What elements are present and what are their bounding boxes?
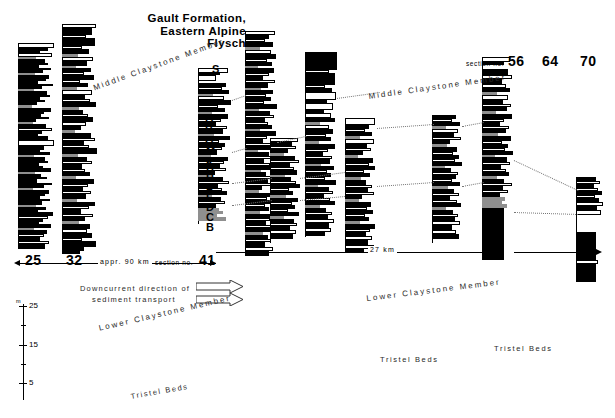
correlation-tie-line [514,212,578,215]
transport-label-line-1: Downcurrent direction of [80,284,190,293]
correlation-tie-line [232,95,246,101]
annotation-tristel-beds-right: Tristel Beds [494,344,553,353]
vertical-scale-label-15: 15 [29,340,38,349]
vertical-scale-tick-5 [19,383,27,384]
vertical-scale-label-25: 25 [29,301,38,310]
distance-line-27km-right [514,252,576,253]
bed-layer [62,38,95,46]
vertical-scale-label-5: 5 [29,378,33,387]
distance-arrow-right-90km [210,260,216,266]
strat-column-25 [18,43,58,249]
bed-letter-S: S [212,64,219,75]
bed-layer [270,234,293,239]
strat-column-mid3 [345,118,377,253]
downcurrent-arrow-lower [196,293,244,306]
strat-column-56 [482,57,514,260]
vertical-scale-unit: m [16,298,21,304]
bed-layer [62,28,92,35]
bed-layer [18,244,45,249]
bed-letter-H: H [206,168,214,179]
section-number-64: 64 [542,53,559,69]
bed-layer [305,103,333,110]
section-number-56: 56 [508,53,525,69]
vertical-scale-tick-10 [21,364,26,365]
section-number-25: 25 [25,252,42,268]
annotation-tristel-beds-left: Tristel Beds [130,382,189,401]
bed-layer [345,118,375,125]
strat-column-mid2 [305,52,337,237]
annotation-lower-claystone-right: Lower Claystone Member [366,278,501,303]
bed-letter-B: B [206,222,214,233]
correlation-tie-line [232,148,246,153]
correlation-tie-line [514,160,578,191]
vertical-scale-tick-20 [21,325,26,326]
bed-layer [305,92,336,100]
distance-arrow-right-27km [596,249,602,255]
section-prefix-56: section no. [466,60,504,67]
strat-column-mid1 [270,138,300,243]
bed-layer [576,264,596,282]
correlation-tie-line [462,182,484,187]
bed-layer [305,73,335,85]
distance-line-27km-left [216,252,482,253]
bed-layer [576,232,596,260]
strat-column-32 [62,24,100,254]
distance-label-27km: 27 km [368,246,397,253]
downcurrent-arrow-upper [196,280,244,293]
bed-layer [305,52,337,70]
figure-title-line-1: Gault Formation, [96,12,246,25]
annotation-tristel-beds-mid: Tristel Beds [380,355,439,364]
correlation-tie-line [377,182,434,187]
correlation-tie-line [462,122,484,127]
vertical-scale-axis [23,304,24,400]
bed-layer [482,208,504,260]
section-number-70: 70 [580,53,597,69]
vertical-scale-tick-25 [19,306,27,307]
transport-label-line-2: sediment transport [92,295,176,304]
vertical-scale-tick-15 [19,345,27,346]
bed-layer [198,75,216,81]
correlation-tie-line [377,124,434,129]
bed-letter-F-query: ? [213,182,217,189]
vertical-scale-bar: m 25 15 5 [14,300,58,400]
section-number-32: 32 [66,252,83,268]
distance-label-90km: appr. 90 km [98,258,152,265]
figure-title-line-2: Eastern Alpine [96,25,246,38]
bed-layer [576,210,601,215]
bed-layer [432,234,459,239]
strat-column-mid4 [432,115,462,243]
bed-layer [305,232,325,236]
strat-column-70 [576,177,602,282]
stratigraphic-correlation-figure: Gault Formation, Eastern Alpine Flysch S… [0,0,615,418]
